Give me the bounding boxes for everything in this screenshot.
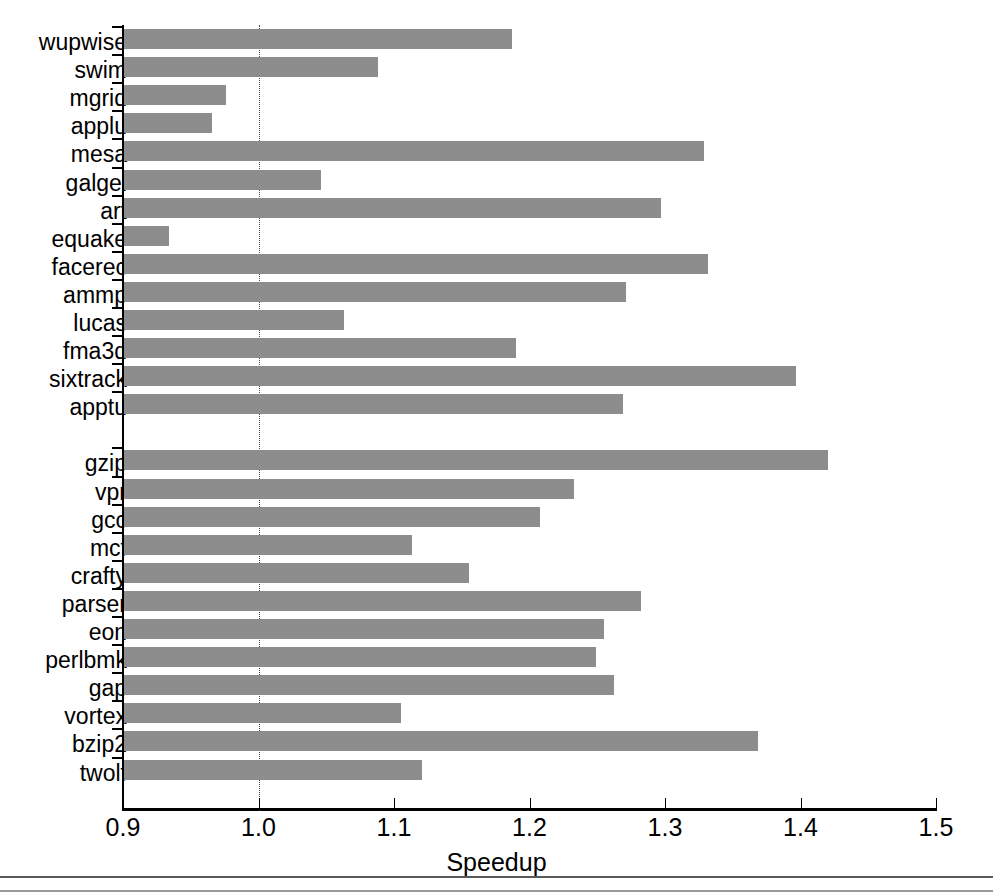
bar-category-label: vpr <box>95 481 127 504</box>
bar-row: swim <box>0 53 993 81</box>
bar-category-label: gap <box>89 677 127 700</box>
bar-category-label: parser <box>62 593 127 616</box>
y-axis-tick <box>112 26 123 28</box>
y-axis-tick <box>112 391 123 393</box>
x-axis-title: Speedup <box>0 848 993 877</box>
bar-crafty <box>124 563 469 583</box>
y-axis-tick <box>112 138 123 140</box>
bar-category-label: lucas <box>73 312 127 335</box>
bar-row: eon <box>0 615 993 643</box>
x-axis-tick-label: 1.5 <box>906 812 966 842</box>
x-axis-tick-label: 1.2 <box>500 812 560 842</box>
bar-category-label: gcc <box>91 509 127 532</box>
y-axis-tick <box>112 167 123 169</box>
bar-row: bzip2 <box>0 727 993 755</box>
y-axis-tick <box>112 504 123 506</box>
bar-category-label: mcf <box>90 537 127 560</box>
bar-category-label: art <box>100 200 127 223</box>
bar-facerec <box>124 254 708 274</box>
y-axis-tick <box>112 363 123 365</box>
y-axis-tick <box>112 223 123 225</box>
bar-gzip <box>124 450 828 470</box>
bar-row: galgel <box>0 166 993 194</box>
y-axis-tick <box>112 476 123 478</box>
bar-row: art <box>0 194 993 222</box>
x-axis-tick-label: 1.4 <box>771 812 831 842</box>
page-divider-rule-top <box>0 876 993 878</box>
bar-category-label: applu <box>71 115 127 138</box>
bar-category-label: sixtrack <box>49 368 127 391</box>
bar-parser <box>124 591 641 611</box>
speedup-bar-chart-figure: wupwiseswimmgridapplumesagalgelartequake… <box>0 0 993 892</box>
bar-category-label: eon <box>89 621 127 644</box>
y-axis-tick <box>112 672 123 674</box>
y-axis-tick <box>112 307 123 309</box>
y-axis-tick <box>112 54 123 56</box>
bar-row: lucas <box>0 306 993 334</box>
bar-bzip2 <box>124 731 758 751</box>
bar-category-label: wupwise <box>39 31 127 54</box>
y-axis-tick <box>112 560 123 562</box>
bar-row: sixtrack <box>0 362 993 390</box>
bar-mcf <box>124 535 412 555</box>
x-axis-tick-label: 1.1 <box>364 812 424 842</box>
bar-row: vortex <box>0 699 993 727</box>
x-axis-tick <box>123 798 124 809</box>
bar-row: facerec <box>0 250 993 278</box>
bar-row: perlbmk <box>0 643 993 671</box>
bar-category-label: swim <box>75 59 127 82</box>
x-axis-tick <box>665 798 666 809</box>
bar-ammp <box>124 282 626 302</box>
bar-sixtrack <box>124 366 796 386</box>
bar-gap <box>124 675 614 695</box>
bar-row: ammp <box>0 278 993 306</box>
y-axis-tick <box>112 195 123 197</box>
bar-row: mesa <box>0 137 993 165</box>
plot-area: wupwiseswimmgridapplumesagalgelartequake… <box>0 0 993 892</box>
bar-applu <box>124 113 212 133</box>
y-axis-tick <box>112 728 123 730</box>
bar-category-label: equake <box>52 228 127 251</box>
y-axis-tick <box>112 616 123 618</box>
bar-lucas <box>124 310 344 330</box>
y-axis-tick <box>112 532 123 534</box>
bar-apptu <box>124 394 623 414</box>
y-axis-tick <box>112 757 123 759</box>
bar-swim <box>124 57 378 77</box>
x-axis-tick-label: 0.9 <box>93 812 153 842</box>
x-axis-tick <box>259 798 260 809</box>
bar-category-label: apptu <box>69 396 127 419</box>
bar-row: gzip <box>0 446 993 474</box>
y-axis-tick <box>112 335 123 337</box>
bar-gcc <box>124 507 540 527</box>
y-axis-tick <box>112 82 123 84</box>
y-axis-tick <box>112 644 123 646</box>
x-axis-tick <box>936 798 937 809</box>
bar-category-label: ammp <box>63 284 127 307</box>
bar-row: mcf <box>0 531 993 559</box>
bar-mgrid <box>124 85 226 105</box>
bar-category-label: mesa <box>71 143 127 166</box>
bar-row: vpr <box>0 475 993 503</box>
y-axis-tick <box>112 700 123 702</box>
bar-row: gap <box>0 671 993 699</box>
bar-category-label: vortex <box>64 705 127 728</box>
bar-category-label: crafty <box>71 565 127 588</box>
bar-vortex <box>124 703 401 723</box>
bar-mesa <box>124 141 704 161</box>
y-axis-tick <box>112 588 123 590</box>
bar-category-label: gzip <box>85 452 127 475</box>
bar-row: gcc <box>0 503 993 531</box>
bar-galgel <box>124 170 321 190</box>
x-axis-tick <box>394 798 395 809</box>
bar-vpr <box>124 479 574 499</box>
bar-category-label: twolf <box>80 762 127 785</box>
bar-perlbmk <box>124 647 596 667</box>
bar-category-label: bzip2 <box>72 733 127 756</box>
bar-row: crafty <box>0 559 993 587</box>
bar-row: apptu <box>0 390 993 418</box>
bar-row: wupwise <box>0 25 993 53</box>
bar-row: parser <box>0 587 993 615</box>
bar-fma3d <box>124 338 516 358</box>
bar-wupwise <box>124 29 512 49</box>
